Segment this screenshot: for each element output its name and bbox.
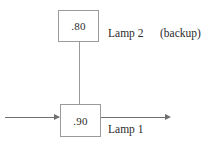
label-lamp2: Lamp 2 bbox=[108, 27, 143, 39]
input-arrow-icon bbox=[54, 114, 60, 120]
block-lamp2: .80 bbox=[58, 10, 99, 42]
output-arrow-icon bbox=[165, 114, 171, 120]
block-lamp1: .90 bbox=[60, 104, 101, 137]
parallel-link-line bbox=[79, 41, 80, 105]
output-wire bbox=[101, 117, 169, 118]
block-lamp2-value: .80 bbox=[71, 20, 85, 32]
input-wire bbox=[5, 117, 59, 118]
diagram-canvas: .80 .90 Lamp 2 (backup) Lamp 1 bbox=[0, 0, 214, 146]
label-lamp2-annotation: (backup) bbox=[160, 27, 201, 39]
block-lamp1-value: .90 bbox=[73, 115, 87, 127]
label-lamp1: Lamp 1 bbox=[108, 123, 143, 135]
